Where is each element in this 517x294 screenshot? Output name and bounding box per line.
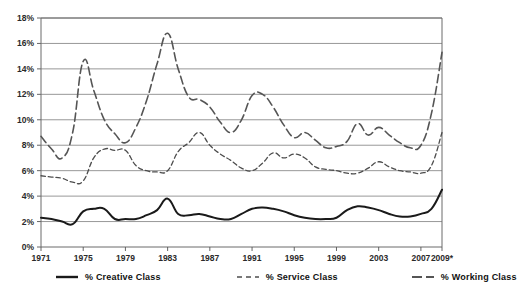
x-axis-tick-label: 2003 <box>369 253 388 263</box>
legend-swatch-creative-class <box>56 272 78 282</box>
legend-label-working-class: % Working Class <box>441 272 517 282</box>
y-axis-tick-label: 2% <box>22 217 35 227</box>
legend-item-working-class: % Working Class <box>412 272 517 282</box>
y-axis-tick-label: 6% <box>22 166 35 176</box>
y-axis-tick-label: 10% <box>17 115 34 125</box>
x-axis-tick-label: 1999 <box>327 253 346 263</box>
x-axis-tick-label: 1971 <box>32 253 51 263</box>
x-axis-tick-label: 2009* <box>431 253 454 263</box>
chart-legend: % Creative Class % Service Class % Worki… <box>0 266 454 288</box>
series-line-service-class <box>41 132 442 183</box>
series-line-working-class <box>41 33 442 159</box>
legend-label-service-class: % Service Class <box>266 272 338 282</box>
legend-item-creative-class: % Creative Class <box>56 272 161 282</box>
y-axis-tick-label: 0% <box>22 242 35 252</box>
legend-swatch-service-class <box>237 272 259 282</box>
x-axis-tick-label: 2007 <box>411 253 430 263</box>
legend-item-service-class: % Service Class <box>237 272 338 282</box>
y-axis-tick-label: 16% <box>17 38 34 48</box>
y-axis-tick-label: 12% <box>17 89 34 99</box>
y-axis-tick-label: 4% <box>22 191 35 201</box>
x-axis-tick-label: 1983 <box>158 253 177 263</box>
x-axis-tick-label: 1995 <box>285 253 304 263</box>
y-axis-tick-label: 8% <box>22 140 35 150</box>
x-axis-tick-label: 1991 <box>243 253 262 263</box>
series-line-creative-class <box>41 190 442 225</box>
y-axis-tick-label: 18% <box>17 13 34 23</box>
x-axis-tick-label: 1987 <box>200 253 219 263</box>
y-axis-tick-label: 14% <box>17 64 34 74</box>
legend-label-creative-class: % Creative Class <box>85 272 161 282</box>
x-axis-tick-label: 1975 <box>74 253 93 263</box>
x-axis-tick-label: 1979 <box>116 253 135 263</box>
legend-swatch-working-class <box>412 272 434 282</box>
